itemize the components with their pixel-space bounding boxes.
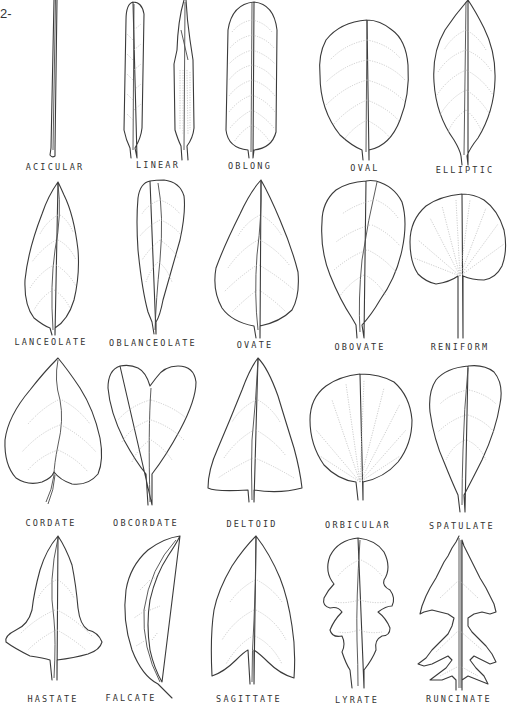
label-oblong: OBLONG	[228, 161, 272, 171]
runcinate-leaf-illustration	[418, 536, 496, 690]
label-reniform: RENIFORM	[431, 342, 490, 352]
label-sagittate: SAGITTATE	[216, 694, 282, 704]
deltoid-leaf-illustration	[208, 358, 302, 502]
hastate-leaf-illustration	[6, 536, 102, 680]
oblong-leaf-illustration	[226, 2, 277, 158]
label-orbicular: ORBICULAR	[325, 520, 391, 530]
leaf-illustrations	[0, 0, 507, 708]
label-cordate: CORDATE	[25, 518, 76, 528]
label-ovate: OVATE	[237, 340, 274, 350]
acicular-leaf-illustration	[50, 0, 57, 157]
label-oval: OVAL	[350, 163, 379, 173]
leaf-shapes-plate: 2-	[0, 0, 507, 708]
orbicular-leaf-illustration	[310, 374, 412, 500]
label-spatulate: SPATULATE	[429, 521, 495, 531]
cordate-leaf-illustration	[5, 358, 102, 504]
label-lanceolate: LANCEOLATE	[14, 337, 87, 347]
spatulate-leaf-illustration	[430, 366, 502, 512]
label-obcordate: OBCORDATE	[113, 518, 179, 528]
obovate-leaf-illustration	[322, 181, 405, 339]
linear-leaf-illustration	[124, 0, 194, 160]
obcordate-leaf-illustration	[108, 365, 196, 505]
label-obovate: OBOVATE	[334, 342, 385, 352]
lanceolate-leaf-illustration	[25, 182, 79, 335]
label-acicular: ACICULAR	[26, 162, 85, 172]
label-runcinate: RUNCINATE	[426, 694, 492, 704]
sagittate-leaf-illustration	[211, 536, 294, 684]
ovate-leaf-illustration	[215, 180, 299, 338]
reniform-leaf-illustration	[410, 194, 506, 338]
falcate-leaf-illustration	[125, 536, 180, 698]
lyrate-leaf-illustration	[324, 538, 394, 688]
label-falcate: FALCATE	[105, 693, 156, 703]
label-linear: LINEAR	[136, 160, 180, 170]
label-elliptic: ELLIPTIC	[436, 165, 495, 175]
elliptic-leaf-illustration	[434, 0, 495, 165]
label-deltoid: DELTOID	[226, 519, 277, 529]
label-lyrate: LYRATE	[335, 695, 379, 705]
label-hastate: HASTATE	[27, 694, 78, 704]
label-oblanceolate: OBLANCEOLATE	[109, 338, 197, 348]
oval-leaf-illustration	[320, 20, 409, 160]
oblanceolate-leaf-illustration	[137, 180, 185, 334]
